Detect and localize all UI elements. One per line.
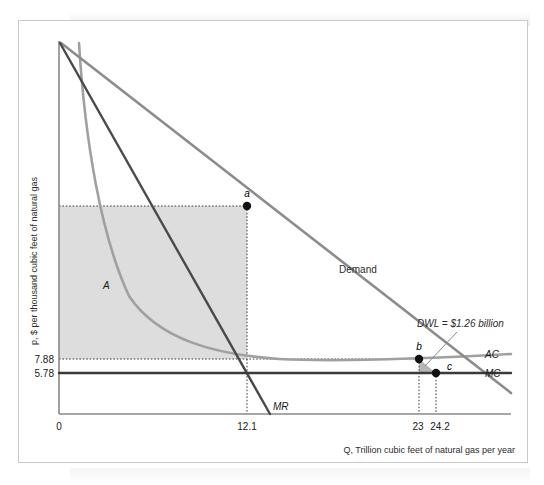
point-label-b: b [416,341,422,352]
point-label-c: c [447,361,452,372]
y-tick-578: 5.78 [35,368,55,379]
economics-chart: a b c Demand MR AC MC A DWL = $1.26 bill… [19,21,527,462]
x-tick-23: 23 [412,421,424,432]
y-tick-788: 7.88 [35,354,55,365]
y-axis-title: p, $ per thousand cubic feet of natural … [29,176,39,345]
shaded-region-profit-A [59,206,247,359]
data-point-b [415,355,423,363]
x-tick-121: 12.1 [237,421,257,432]
annotation-dwl: DWL = $1.26 billion [417,318,504,329]
data-point-a [243,202,251,210]
x-axis-title: Q, Trillion cubic feet of natural gas pe… [343,445,515,455]
x-origin-label: 0 [56,421,62,432]
curve-label-mc: MC [485,368,501,379]
x-tick-242: 24.2 [430,421,450,432]
curve-label-mr: MR [273,401,289,412]
region-label-profit-A: A [102,280,110,291]
page-shadow-bottom [70,468,530,482]
point-label-a: a [244,188,250,199]
curve-label-ac: AC [484,349,500,360]
curve-label-demand: Demand [339,264,377,275]
curve-ac [79,43,511,360]
figure-frame: a b c Demand MR AC MC A DWL = $1.26 bill… [18,20,528,463]
data-point-c [432,369,440,377]
